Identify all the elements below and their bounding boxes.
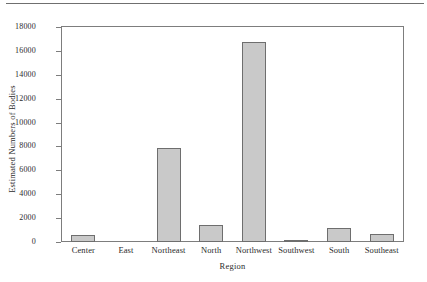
bar-slot — [62, 27, 105, 242]
bar-slot — [190, 27, 233, 242]
bar-slot — [233, 27, 276, 242]
y-axis-tick-label: 6000 — [19, 166, 36, 174]
top-horizontal-rule — [6, 3, 424, 4]
bar-slot — [105, 27, 148, 242]
y-axis-tick-label: 16000 — [15, 47, 36, 55]
bar-slot — [318, 27, 361, 242]
y-axis-tick-label: 2000 — [19, 214, 36, 222]
bar[interactable] — [157, 148, 181, 242]
x-axis-tick-label: Northwest — [233, 245, 276, 255]
x-axis-tick-label: Center — [62, 245, 105, 255]
x-axis-tick-label: North — [190, 245, 233, 255]
bar-slot — [147, 27, 190, 242]
bar-series — [62, 27, 403, 242]
x-axis-tick-label: East — [105, 245, 148, 255]
bar-slot — [360, 27, 403, 242]
y-axis-tick-label: 8000 — [19, 142, 36, 150]
bar[interactable] — [370, 234, 394, 242]
bar[interactable] — [199, 225, 223, 242]
bar[interactable] — [284, 240, 308, 242]
x-axis-tick-label: Southwest — [275, 245, 318, 255]
x-axis-tick-labels: CenterEastNortheastNorthNorthwestSouthwe… — [62, 245, 403, 255]
y-axis-tick-label: 4000 — [19, 190, 36, 198]
y-axis-tick-label: 0 — [32, 238, 36, 246]
y-axis-tick-label: 14000 — [15, 71, 36, 79]
x-axis-tick-label: South — [318, 245, 361, 255]
y-axis-tick-label: 10000 — [15, 119, 36, 127]
x-axis-tick-label: Southeast — [360, 245, 403, 255]
x-axis-title: Region — [62, 261, 403, 271]
bar[interactable] — [327, 228, 351, 242]
bar[interactable] — [71, 235, 95, 242]
x-axis-tick-label: Northeast — [147, 245, 190, 255]
chart-page: Estimated Numbers of Bodies 020004000600… — [0, 0, 427, 282]
plot-area — [62, 27, 403, 242]
y-axis-tick-mark — [56, 242, 61, 243]
bar[interactable] — [242, 42, 266, 242]
y-axis-tick-labels: 0200040006000800010000120001400016000180… — [0, 0, 61, 282]
y-axis-tick-label: 18000 — [15, 23, 36, 31]
bar-slot — [275, 27, 318, 242]
y-axis-tick-label: 12000 — [15, 95, 36, 103]
